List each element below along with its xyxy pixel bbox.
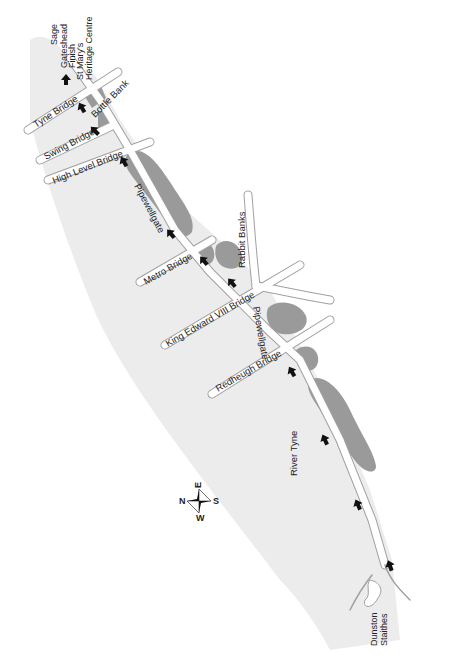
route-map: Sage Gateshead Finish St Mary's Heritage… (0, 0, 450, 665)
label-staithes: Staithes (379, 613, 389, 646)
label-river-tyne: River Tyne (288, 431, 299, 476)
compass-left: N (179, 496, 186, 506)
label-rabbit-banks: Rabbit Banks (236, 211, 247, 268)
label-dunston: Dunston (369, 612, 379, 646)
label-sage: Sage (49, 24, 59, 45)
compass-right: S (213, 496, 219, 506)
label-heritage-centre: Heritage Centre (84, 16, 94, 80)
compass-top: E (193, 482, 203, 488)
compass-bottom: W (196, 513, 205, 523)
